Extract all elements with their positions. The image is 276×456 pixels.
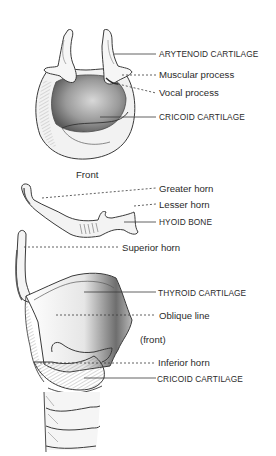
label-lesser-horn: Lesser horn <box>159 200 210 210</box>
cricoid-top-view <box>36 29 135 159</box>
anatomy-illustration <box>0 0 276 456</box>
caption-front-side: (front) <box>140 335 166 345</box>
label-vocal-process: Vocal process <box>159 88 219 98</box>
label-greater-horn: Greater horn <box>159 184 213 194</box>
label-superior-horn: Superior horn <box>122 243 180 253</box>
label-thyroid-cartilage: THYROID CARTILAGE <box>158 289 246 297</box>
label-oblique-line: Oblique line <box>159 311 210 321</box>
label-muscular-process: Muscular process <box>159 70 234 80</box>
label-arytenoid-cartilage: ARYTENOID CARTILAGE <box>159 50 258 58</box>
label-inferior-horn: Inferior horn <box>158 358 210 368</box>
hyoid-bone <box>22 184 138 237</box>
larynx-side-view <box>16 230 132 452</box>
larynx-diagram: ARYTENOID CARTILAGE Muscular process Voc… <box>0 0 276 456</box>
label-cricoid-cartilage-top: CRICOID CARTILAGE <box>159 113 245 121</box>
caption-front: Front <box>76 170 98 180</box>
label-hyoid-bone: HYOID BONE <box>159 218 212 226</box>
label-cricoid-cartilage-side: CRICOID CARTILAGE <box>157 375 243 383</box>
